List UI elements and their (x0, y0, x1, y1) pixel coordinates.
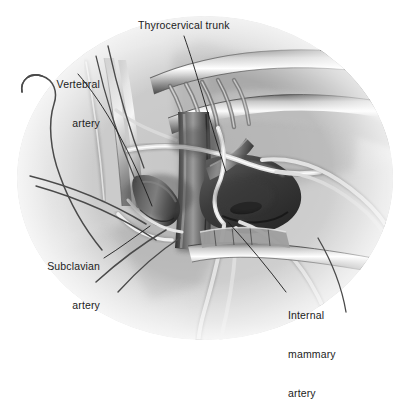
label-thyrocervical-trunk: Thyrocervical trunk (138, 19, 230, 32)
label-subclavian-artery: Subclavian artery (10, 234, 100, 325)
label-subclavian-artery-line2: artery (10, 299, 100, 312)
label-vertebral-artery: Vertebral artery (14, 52, 100, 143)
label-vertebral-artery-line2: artery (14, 117, 100, 130)
label-vertebral-artery-line1: Vertebral (14, 78, 100, 91)
label-internal-mammary-line2: mammary (288, 348, 384, 361)
label-internal-mammary-line1: Internal (288, 309, 384, 322)
label-internal-mammary-artery: Internal mammary artery (288, 283, 384, 403)
label-internal-mammary-line3: artery (288, 387, 384, 400)
label-subclavian-artery-line1: Subclavian (10, 260, 100, 273)
